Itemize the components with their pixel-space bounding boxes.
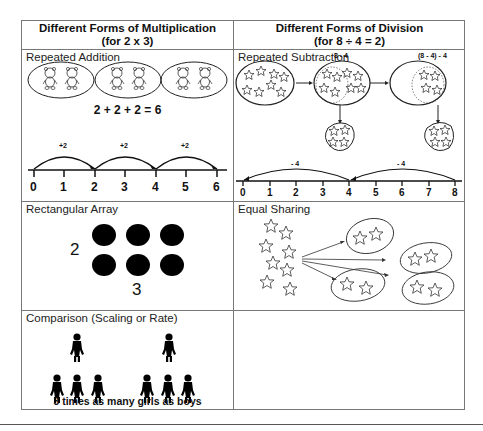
step1-label: 8 - 4 bbox=[334, 52, 348, 59]
header-multiplication: Different Forms of Multiplication (for 2… bbox=[22, 21, 233, 50]
bear-group-2 bbox=[95, 62, 161, 98]
cell-empty bbox=[234, 311, 465, 409]
rows-label: 2 bbox=[70, 240, 79, 260]
bear-group-3 bbox=[161, 62, 227, 98]
tick-label: 7 bbox=[426, 187, 432, 198]
jump-label: +2 bbox=[59, 142, 67, 149]
tick-label: 5 bbox=[182, 180, 189, 194]
tick-label: 4 bbox=[152, 180, 159, 194]
tick-label: 6 bbox=[213, 180, 220, 194]
step2-label: (8 - 4) - 4 bbox=[418, 52, 447, 59]
bear-group-1 bbox=[28, 62, 94, 98]
header-subtitle: (for 8 ÷ 4 = 2) bbox=[234, 35, 465, 48]
tick-label: 1 bbox=[60, 180, 67, 194]
repeated-subtraction-figure bbox=[234, 50, 465, 201]
cell-equal-sharing: Equal Sharing bbox=[234, 202, 465, 310]
cell-rectangular-array: Rectangular Array 2 3 bbox=[22, 202, 233, 310]
repeated-addition-figure bbox=[22, 50, 233, 201]
tick-label: 5 bbox=[373, 187, 379, 198]
header-division: Different Forms of Division (for 8 ÷ 4 =… bbox=[234, 21, 465, 50]
header-subtitle: (for 2 x 3) bbox=[22, 35, 233, 48]
tick-label: 0 bbox=[30, 180, 37, 194]
header-title: Different Forms of Division bbox=[234, 22, 465, 35]
tick-label: 4 bbox=[346, 187, 352, 198]
tick-label: 0 bbox=[240, 187, 246, 198]
cell-comparison: Comparison (Scaling or Rate) 3 times as … bbox=[22, 311, 233, 409]
page-separator bbox=[0, 424, 483, 425]
cols-label: 3 bbox=[132, 280, 141, 300]
dot-array bbox=[22, 202, 233, 310]
equation: 2 + 2 + 2 = 6 bbox=[22, 103, 233, 117]
jump-label: - 4 bbox=[397, 160, 405, 167]
tick-label: 3 bbox=[121, 180, 128, 194]
tick-label: 3 bbox=[320, 187, 326, 198]
tick-label: 8 bbox=[452, 187, 458, 198]
tick-label: 2 bbox=[91, 180, 98, 194]
tick-label: 1 bbox=[267, 187, 273, 198]
jump-label: +2 bbox=[120, 142, 128, 149]
forms-table: Different Forms of Multiplication (for 2… bbox=[21, 20, 465, 410]
comparison-caption: 3 times as many girls as boys bbox=[22, 395, 233, 407]
cell-repeated-addition: Repeated Addition bbox=[22, 50, 233, 201]
tick-label: 6 bbox=[399, 187, 405, 198]
jump-label: +2 bbox=[181, 142, 189, 149]
tick-label: 2 bbox=[293, 187, 299, 198]
cell-repeated-subtraction: Repeated Subtraction bbox=[234, 50, 465, 201]
equal-sharing-figure bbox=[234, 202, 465, 310]
jump-label: - 4 bbox=[291, 160, 299, 167]
header-title: Different Forms of Multiplication bbox=[22, 22, 233, 35]
